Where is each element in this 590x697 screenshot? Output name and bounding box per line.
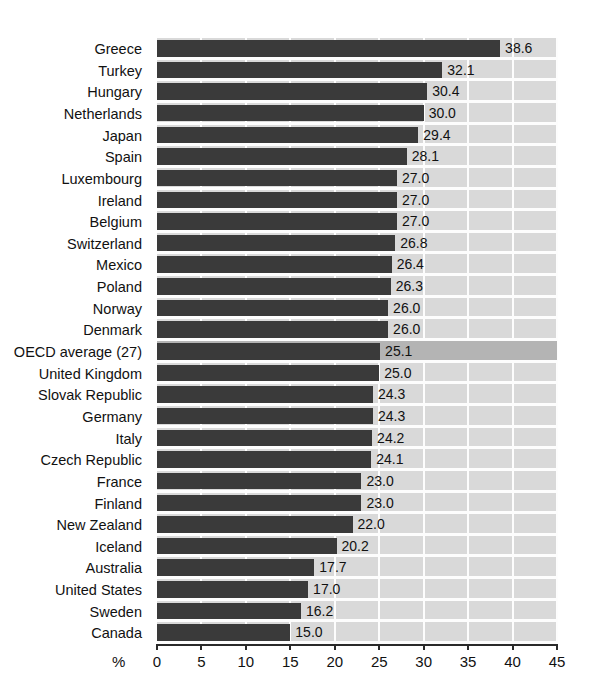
bar-value-label: 28.1 xyxy=(407,146,439,168)
bar xyxy=(157,170,397,187)
bar-value-label: 32.1 xyxy=(442,60,474,82)
bar-value-label: 25.0 xyxy=(379,363,411,385)
category-label: Turkey xyxy=(98,60,142,82)
category-label: United Kingdom xyxy=(39,363,142,385)
bar xyxy=(157,213,397,230)
category-label: Canada xyxy=(91,622,142,644)
bar xyxy=(157,148,407,165)
category-label: Ireland xyxy=(98,190,142,212)
bar-value-label: 30.0 xyxy=(424,103,456,125)
bar xyxy=(157,343,380,360)
category-label: Luxembourg xyxy=(61,168,142,190)
bar-value-label: 26.3 xyxy=(391,276,423,298)
category-label: Iceland xyxy=(95,536,142,558)
bar xyxy=(157,235,395,252)
bar-value-label: 38.6 xyxy=(500,38,532,60)
bar-value-label: 30.4 xyxy=(427,81,459,103)
bar xyxy=(157,581,308,598)
x-tick-label: 5 xyxy=(181,652,221,672)
category-label: United States xyxy=(55,579,142,601)
category-label: Switzerland xyxy=(67,233,142,255)
x-tick-mark xyxy=(245,644,247,650)
bar-value-label: 27.0 xyxy=(397,190,429,212)
x-tick-mark xyxy=(200,644,202,650)
bar-value-label: 20.2 xyxy=(337,536,369,558)
bar-value-label: 25.1 xyxy=(380,341,412,363)
x-tick-mark xyxy=(423,644,425,650)
bar xyxy=(157,386,373,403)
x-tick-label: 40 xyxy=(493,652,533,672)
bar xyxy=(157,105,424,122)
category-label: Japan xyxy=(102,125,142,147)
category-label: Finland xyxy=(94,493,142,515)
category-label: Australia xyxy=(86,557,142,579)
bar xyxy=(157,408,373,425)
bar-value-label: 15.0 xyxy=(290,622,322,644)
category-axis: GreeceTurkeyHungaryNetherlandsJapanSpain… xyxy=(0,38,150,644)
x-tick-label: 25 xyxy=(359,652,399,672)
bar xyxy=(157,256,392,273)
bar-value-label: 29.4 xyxy=(418,125,450,147)
category-label: Czech Republic xyxy=(40,449,142,471)
bar xyxy=(157,603,301,620)
bar-value-label: 24.2 xyxy=(372,428,404,450)
bar-value-label: 27.0 xyxy=(397,168,429,190)
bar-value-label: 24.3 xyxy=(373,406,405,428)
category-label: Mexico xyxy=(96,254,142,276)
x-tick-mark xyxy=(334,644,336,650)
x-tick-mark xyxy=(378,644,380,650)
x-tick-label: 15 xyxy=(270,652,310,672)
bar xyxy=(157,495,361,512)
bar xyxy=(157,278,391,295)
plot-area: 38.632.130.430.029.428.127.027.027.026.8… xyxy=(157,38,557,644)
x-tick-label: 10 xyxy=(226,652,266,672)
bar xyxy=(157,127,418,144)
x-tick-label: 0 xyxy=(137,652,177,672)
chart-title xyxy=(0,0,590,10)
bar-value-label: 26.0 xyxy=(388,319,420,341)
x-tick-label: 30 xyxy=(404,652,444,672)
x-tick-mark xyxy=(289,644,291,650)
bar-value-label: 27.0 xyxy=(397,211,429,233)
x-tick-mark xyxy=(156,644,158,650)
x-axis-unit-label: % xyxy=(112,652,125,672)
x-tick-label: 35 xyxy=(448,652,488,672)
category-label: Hungary xyxy=(87,81,142,103)
category-label: Norway xyxy=(93,298,142,320)
bar xyxy=(157,300,388,317)
bar-value-label: 24.1 xyxy=(371,449,403,471)
category-label: Greece xyxy=(94,38,142,60)
bar xyxy=(157,321,388,338)
bar xyxy=(157,62,442,79)
bar xyxy=(157,559,314,576)
category-label: Spain xyxy=(105,146,142,168)
x-tick-label: 45 xyxy=(537,652,577,672)
bar xyxy=(157,83,427,100)
bar xyxy=(157,538,337,555)
x-tick-mark xyxy=(512,644,514,650)
bar xyxy=(157,516,353,533)
category-label: France xyxy=(97,471,142,493)
bar-value-label: 26.0 xyxy=(388,298,420,320)
bar-value-label: 22.0 xyxy=(353,514,385,536)
bar xyxy=(157,451,371,468)
x-tick-label: 20 xyxy=(315,652,355,672)
x-tick-mark xyxy=(467,644,469,650)
bar-value-label: 24.3 xyxy=(373,384,405,406)
category-label: Denmark xyxy=(83,319,142,341)
bar-value-label: 23.0 xyxy=(361,471,393,493)
bar-value-label: 17.0 xyxy=(308,579,340,601)
bar xyxy=(157,624,290,641)
bar-value-label: 17.7 xyxy=(314,557,346,579)
bar-value-label: 26.8 xyxy=(395,233,427,255)
bar-value-label: 16.2 xyxy=(301,601,333,623)
category-label: OECD average (27) xyxy=(14,341,142,363)
bar xyxy=(157,473,361,490)
bar xyxy=(157,365,379,382)
bar xyxy=(157,40,500,57)
horizontal-bar-chart: GreeceTurkeyHungaryNetherlandsJapanSpain… xyxy=(0,0,590,697)
category-label: Germany xyxy=(82,406,142,428)
bar-value-label: 23.0 xyxy=(361,493,393,515)
category-label: New Zealand xyxy=(57,514,142,536)
x-tick-mark xyxy=(556,644,558,650)
